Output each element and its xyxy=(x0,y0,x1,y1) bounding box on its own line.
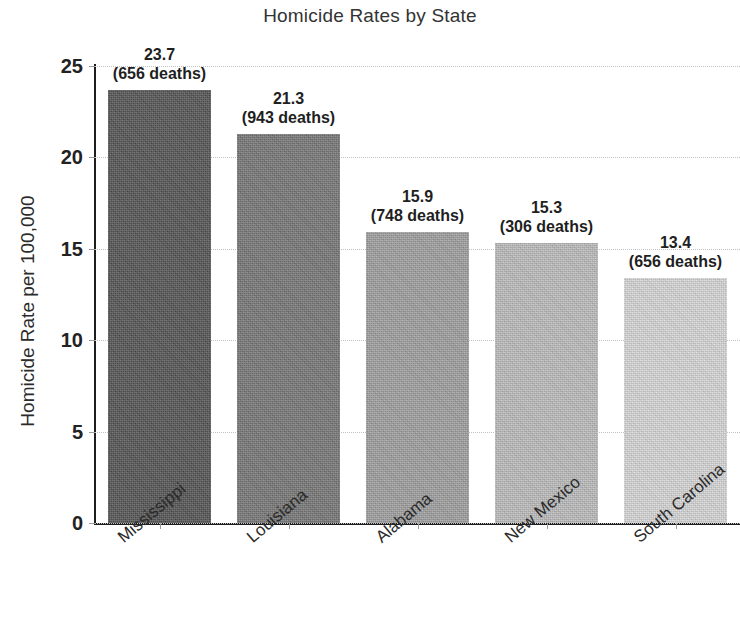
bar-deaths: (943 deaths) xyxy=(242,109,335,128)
y-tick-label: 0 xyxy=(72,512,83,535)
y-tick-label: 5 xyxy=(72,420,83,443)
bar-value: 13.4 xyxy=(629,234,722,253)
bar-deaths: (656 deaths) xyxy=(629,253,722,272)
bar-label: 13.4(656 deaths) xyxy=(629,234,722,272)
x-tick-mark xyxy=(418,523,419,529)
bar-value: 15.9 xyxy=(371,188,464,207)
bar-value: 21.3 xyxy=(242,90,335,109)
chart-title: Homicide Rates by State xyxy=(0,5,740,27)
bar-label: 15.9(748 deaths) xyxy=(371,188,464,226)
plot-area: 0510152025 23.7(656 deaths)21.3(943 deat… xyxy=(95,66,740,523)
y-tick-mark xyxy=(89,340,95,341)
bar-deaths: (306 deaths) xyxy=(500,218,593,237)
y-tick-mark xyxy=(89,66,95,67)
bar-label: 23.7(656 deaths) xyxy=(113,46,206,84)
y-tick-label: 20 xyxy=(61,146,83,169)
bar-chart: Homicide Rates by State Homicide Rate pe… xyxy=(0,0,740,642)
y-tick-mark xyxy=(89,523,95,524)
y-tick-mark xyxy=(89,432,95,433)
x-tick-mark xyxy=(160,523,161,529)
x-tick-mark xyxy=(676,523,677,529)
bar[interactable] xyxy=(108,90,211,523)
bar-value: 15.3 xyxy=(500,199,593,218)
x-tick-mark xyxy=(289,523,290,529)
y-axis-title: Homicide Rate per 100,000 xyxy=(17,141,39,481)
bar-deaths: (748 deaths) xyxy=(371,207,464,226)
bar[interactable] xyxy=(495,243,598,523)
y-tick-label: 15 xyxy=(61,237,83,260)
bar-label: 21.3(943 deaths) xyxy=(242,90,335,128)
y-tick-mark xyxy=(89,249,95,250)
y-tick-label: 10 xyxy=(61,329,83,352)
y-tick-label: 25 xyxy=(61,55,83,78)
bar-value: 23.7 xyxy=(113,46,206,65)
y-tick-mark xyxy=(89,157,95,158)
bar[interactable] xyxy=(237,134,340,523)
bar-label: 15.3(306 deaths) xyxy=(500,199,593,237)
x-tick-mark xyxy=(547,523,548,529)
bar[interactable] xyxy=(366,232,469,523)
bar-deaths: (656 deaths) xyxy=(113,65,206,84)
